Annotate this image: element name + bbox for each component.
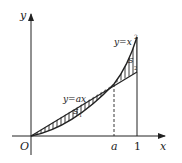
s2-subscript: 2 [134, 65, 137, 71]
tick-one-label: 1 [134, 140, 141, 153]
line-y-ax [31, 72, 137, 136]
parabola-label: y=x [113, 37, 132, 47]
y-axis-label: y [19, 9, 27, 22]
s2-label: S [128, 56, 134, 65]
x-axis-label: x [160, 140, 167, 153]
area-diagram: y x O a 1 y=x 2 y=ax S 1 S 2 [0, 0, 182, 163]
tick-a-label: a [111, 140, 118, 153]
parabola-curve [31, 37, 137, 136]
s1-subscript: 1 [79, 112, 82, 118]
line-label: y=ax [62, 94, 86, 104]
parabola-exponent: 2 [134, 33, 138, 40]
origin-label: O [20, 140, 29, 153]
